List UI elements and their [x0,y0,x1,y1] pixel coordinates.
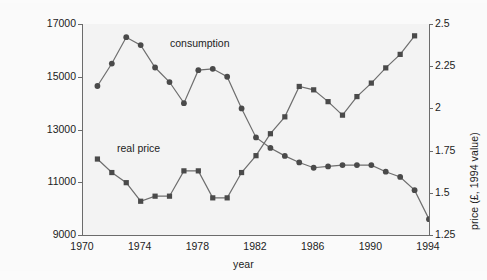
data-point [311,165,317,171]
data-point [311,87,316,92]
y-tick-right-1.5: 1.5 [435,186,475,198]
data-point [369,80,374,85]
data-point [412,187,418,193]
x-tick-1978: 1978 [175,240,219,252]
plot-area [82,24,430,236]
y-tick-right-2.5: 2.5 [435,17,475,29]
data-point [181,100,187,106]
y-tick-right-2: 2 [435,101,475,113]
data-point [354,162,360,168]
y-tick-right-2.25: 2.25 [435,59,475,71]
data-point [340,162,346,168]
data-point [412,33,417,38]
data-point [95,156,100,161]
x-tick-1970: 1970 [60,240,104,252]
chart-figure: cigarette consumption 1994 constant pric… [0,0,487,280]
x-tick-1994: 1994 [406,240,450,252]
data-point [239,106,245,112]
y-tick-left-15000: 15000 [28,70,76,82]
data-point [196,168,201,173]
x-axis-title: year [0,258,487,271]
y-tick-right-1.25: 1.25 [435,228,475,240]
data-point [95,83,101,89]
data-point [210,66,216,72]
data-point [383,169,389,175]
data-point [239,170,244,175]
data-point [152,194,157,199]
data-point [181,168,186,173]
series-line-real-price [97,36,414,201]
series-label-consumption: consumption [170,37,230,49]
plot-series-canvas [83,24,429,235]
data-point [268,131,273,136]
data-point [398,52,403,57]
y-tick-left-17000: 17000 [28,17,76,29]
data-point [210,195,215,200]
data-point [152,65,158,71]
data-point [195,67,201,73]
series-line-consumption [97,37,429,219]
data-point [253,135,259,141]
data-point [282,114,287,119]
data-point [325,164,331,170]
data-point [167,194,172,199]
data-point [354,94,359,99]
x-tick-1974: 1974 [118,240,162,252]
data-point [296,160,302,166]
data-point [340,113,345,118]
y-tick-left-9000: 9000 [28,228,76,240]
data-point [138,199,143,204]
data-point [426,216,429,222]
data-point [224,74,230,80]
data-point [368,162,374,168]
data-point [397,174,403,180]
y-tick-left-11000: 11000 [28,175,76,187]
data-point [325,99,330,104]
x-tick-1982: 1982 [233,240,277,252]
x-tick-1986: 1986 [291,240,335,252]
y-tick-right-1.75: 1.75 [435,144,475,156]
data-point [268,145,274,151]
data-point [167,79,173,85]
data-point [282,153,288,159]
series-label-real-price: real price [117,142,160,154]
x-tick-1990: 1990 [348,240,392,252]
data-point [124,180,129,185]
data-point [225,195,230,200]
data-point [123,34,129,40]
data-point [109,61,115,67]
data-point [138,42,144,48]
data-point [383,65,388,70]
data-point [253,153,258,158]
data-point [109,170,114,175]
y-tick-left-13000: 13000 [28,123,76,135]
data-point [297,84,302,89]
